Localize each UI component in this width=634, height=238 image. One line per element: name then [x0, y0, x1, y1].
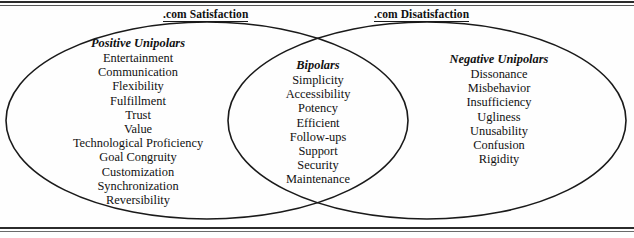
list-item: Unusability — [409, 124, 589, 138]
intersection-set-text-block: Bipolars Simplicity Accessibility Potenc… — [253, 58, 383, 187]
list-item: Efficient — [253, 116, 383, 130]
header-label-satisfaction: .com Satisfaction — [163, 8, 248, 22]
list-item: Security — [253, 158, 383, 172]
list-item: Support — [253, 144, 383, 158]
list-item: Maintenance — [253, 172, 383, 186]
list-item: Technological Proficiency — [48, 136, 228, 150]
list-item: Fulfillment — [48, 94, 228, 108]
list-item: Simplicity — [253, 73, 383, 87]
list-item: Dissonance — [409, 67, 589, 81]
list-item: Goal Congruity — [48, 150, 228, 164]
left-set-heading: Positive Unipolars — [48, 36, 228, 51]
list-item: Flexibility — [48, 79, 228, 93]
list-item: Confusion — [409, 138, 589, 152]
right-set-text-block: Negative Unipolars Dissonance Misbehavio… — [409, 52, 589, 166]
list-item: Customization — [48, 165, 228, 179]
list-item: Trust — [48, 108, 228, 122]
list-item: Entertainment — [48, 51, 228, 65]
list-item: Rigidity — [409, 152, 589, 166]
intersection-set-heading: Bipolars — [253, 58, 383, 73]
list-item: Misbehavior — [409, 81, 589, 95]
header-label-disatisfaction: .com Disatisfaction — [374, 8, 469, 22]
list-item: Reversibility — [48, 193, 228, 207]
venn-diagram-figure: .com Satisfaction .com Disatisfaction Po… — [0, 0, 634, 238]
list-item: Ugliness — [409, 110, 589, 124]
list-item: Potency — [253, 101, 383, 115]
left-set-text-block: Positive Unipolars Entertainment Communi… — [48, 36, 228, 207]
list-item: Value — [48, 122, 228, 136]
list-item: Communication — [48, 65, 228, 79]
bottom-rule-secondary — [0, 231, 634, 232]
list-item: Synchronization — [48, 179, 228, 193]
list-item: Accessibility — [253, 87, 383, 101]
list-item: Follow-ups — [253, 130, 383, 144]
right-set-heading: Negative Unipolars — [409, 52, 589, 67]
bottom-rule-primary — [0, 227, 634, 229]
list-item: Insufficiency — [409, 95, 589, 109]
